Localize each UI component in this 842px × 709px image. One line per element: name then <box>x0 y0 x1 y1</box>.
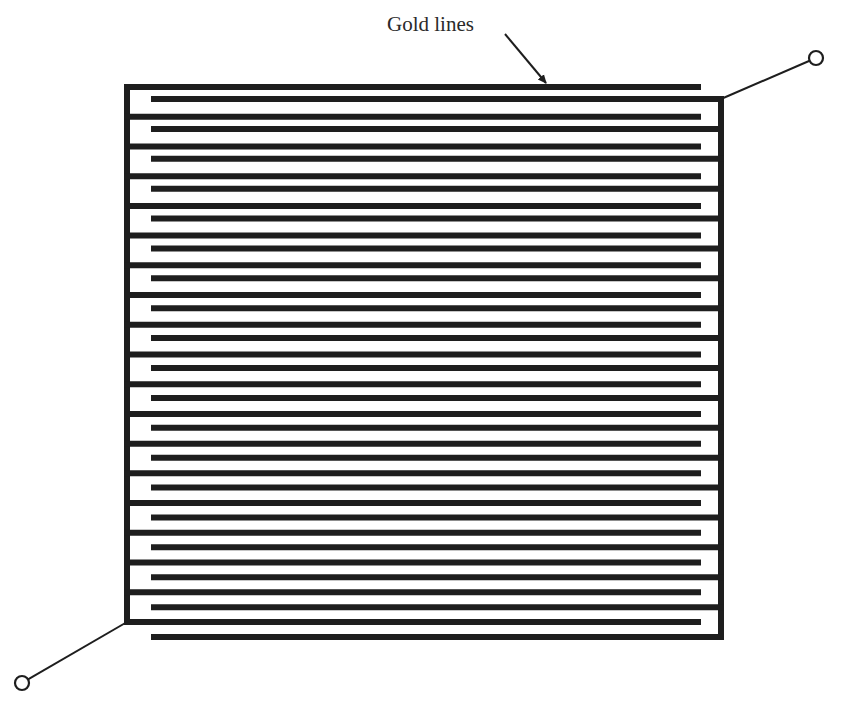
interdigitated-electrode-diagram: Gold lines <box>0 0 842 709</box>
label-arrow <box>505 34 546 83</box>
terminal-bottom-left-icon <box>15 676 29 690</box>
electrode-a <box>124 84 701 625</box>
terminal-bottom-left-lead <box>28 622 127 679</box>
terminal-top-right-icon <box>809 51 823 65</box>
terminal-top-right-lead <box>721 61 810 99</box>
gold-lines-label: Gold lines <box>387 12 474 36</box>
